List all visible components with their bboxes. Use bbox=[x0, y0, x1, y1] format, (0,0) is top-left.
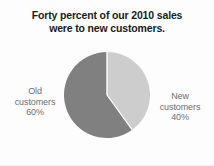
slice-label-old-value: 60% bbox=[4, 107, 66, 118]
chart-title-line-1: Forty percent of our 2010 sales bbox=[14, 9, 200, 22]
chart-title: Forty percent of our 2010 sales were to … bbox=[14, 9, 200, 34]
slice-label-new-value: 40% bbox=[150, 112, 210, 123]
chart-title-line-2: were to new customers. bbox=[14, 22, 200, 35]
slice-label-new-line-2: customers bbox=[150, 102, 210, 113]
slice-label-new-customers: New customers 40% bbox=[150, 91, 210, 123]
pie-graphic bbox=[64, 52, 150, 138]
slice-label-new-line-1: New bbox=[150, 91, 210, 102]
pie-chart-figure: Forty percent of our 2010 sales were to … bbox=[0, 0, 214, 166]
figure-bottom-edge bbox=[0, 165, 214, 166]
slice-label-old-customers: Old customers 60% bbox=[4, 86, 66, 118]
slice-label-old-line-1: Old bbox=[4, 86, 66, 97]
slice-label-old-line-2: customers bbox=[4, 97, 66, 108]
pie-svg bbox=[64, 52, 150, 138]
